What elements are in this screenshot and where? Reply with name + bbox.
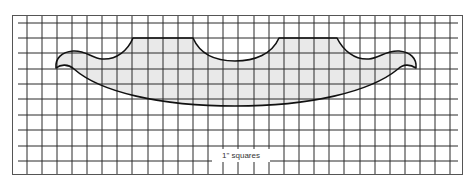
grid-unit-caption: 1" squares <box>212 149 270 162</box>
